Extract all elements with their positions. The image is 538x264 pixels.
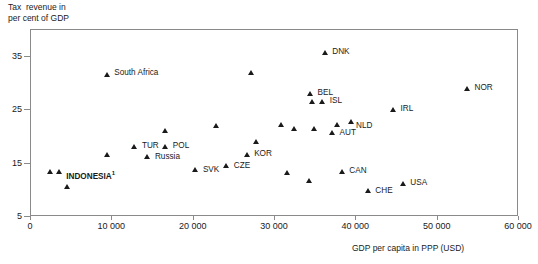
triangle-marker-icon xyxy=(223,163,229,168)
data-point-label: CHE xyxy=(375,186,392,195)
triangle-marker-icon xyxy=(306,178,312,183)
x-tick-label: 60 000 xyxy=(488,221,538,231)
x-tick-mark xyxy=(30,216,31,220)
triangle-marker-icon xyxy=(307,91,313,96)
data-point-label: USA xyxy=(410,178,427,187)
triangle-marker-icon xyxy=(291,126,297,131)
y-tick-label: 5 xyxy=(2,211,22,221)
triangle-marker-icon xyxy=(284,170,290,175)
data-point-label: IRL xyxy=(401,104,414,113)
triangle-marker-icon xyxy=(329,130,335,135)
x-tick-mark xyxy=(437,216,438,220)
data-point-label: Russia xyxy=(155,152,180,161)
data-point-label: TUR xyxy=(142,141,159,150)
data-point-label: POL xyxy=(173,141,189,150)
x-tick-label: 0 xyxy=(0,221,60,231)
data-point-label: DNK xyxy=(332,47,349,56)
triangle-marker-icon xyxy=(278,122,284,127)
triangle-marker-icon xyxy=(390,107,396,112)
triangle-marker-icon xyxy=(322,50,328,55)
data-point-label: ISL xyxy=(330,96,342,105)
data-point-label: CZE xyxy=(234,161,250,170)
triangle-marker-icon xyxy=(253,139,259,144)
triangle-marker-icon xyxy=(104,72,110,77)
triangle-marker-icon xyxy=(334,122,340,127)
x-tick-label: 40 000 xyxy=(325,221,385,231)
triangle-marker-icon xyxy=(319,99,325,104)
data-point-label: KOR xyxy=(254,149,272,158)
triangle-marker-icon xyxy=(339,169,345,174)
x-tick-mark xyxy=(274,216,275,220)
triangle-marker-icon xyxy=(104,152,110,157)
y-tick-mark xyxy=(24,163,30,164)
y-tick-mark xyxy=(24,56,30,57)
data-point-label: AUT xyxy=(340,128,356,137)
y-axis-title: Tax revenue in per cent of GDP xyxy=(8,2,69,24)
data-point-label: NOR xyxy=(475,83,493,92)
triangle-marker-icon xyxy=(64,184,70,189)
data-point-label: BEL xyxy=(318,88,333,97)
triangle-marker-icon xyxy=(47,169,53,174)
x-tick-label: 50 000 xyxy=(407,221,467,231)
triangle-marker-icon xyxy=(56,169,62,174)
data-point-label: South Africa xyxy=(114,68,158,77)
triangle-marker-icon xyxy=(348,119,354,124)
triangle-marker-icon xyxy=(162,144,168,149)
triangle-marker-icon xyxy=(311,126,317,131)
triangle-marker-icon xyxy=(248,70,254,75)
data-point-label: INDONESIA1 xyxy=(66,169,115,181)
triangle-marker-icon xyxy=(464,86,470,91)
data-point-label: SVK xyxy=(203,165,219,174)
triangle-marker-icon xyxy=(244,152,250,157)
y-tick-label: 25 xyxy=(2,104,22,114)
plot-area xyxy=(30,29,518,216)
triangle-marker-icon xyxy=(213,123,219,128)
x-axis-title: GDP per capita in PPP (USD) xyxy=(352,243,464,254)
triangle-marker-icon xyxy=(400,181,406,186)
y-tick-label: 35 xyxy=(2,51,22,61)
triangle-marker-icon xyxy=(365,188,371,193)
x-tick-mark xyxy=(193,216,194,220)
x-tick-label: 10 000 xyxy=(81,221,141,231)
y-tick-mark xyxy=(24,109,30,110)
x-tick-mark xyxy=(111,216,112,220)
x-tick-mark xyxy=(518,216,519,220)
triangle-marker-icon xyxy=(192,167,198,172)
data-point-label: CAN xyxy=(349,166,366,175)
y-tick-label: 15 xyxy=(2,158,22,168)
x-tick-label: 30 000 xyxy=(244,221,304,231)
data-point-label: NLD xyxy=(356,121,372,130)
triangle-marker-icon xyxy=(144,154,150,159)
x-tick-label: 20 000 xyxy=(163,221,223,231)
tax-revenue-scatter-chart: Tax revenue in per cent of GDP GDP per c… xyxy=(0,0,538,264)
triangle-marker-icon xyxy=(162,128,168,133)
x-tick-mark xyxy=(355,216,356,220)
triangle-marker-icon xyxy=(131,144,137,149)
triangle-marker-icon xyxy=(309,99,315,104)
